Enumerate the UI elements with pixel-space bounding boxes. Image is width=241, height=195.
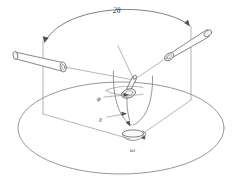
two-theta-arrow-right bbox=[184, 20, 190, 27]
two-theta-label: 2θ bbox=[113, 6, 121, 15]
omega-base bbox=[123, 130, 146, 141]
detector-tube bbox=[163, 29, 213, 63]
base-radial-arms bbox=[43, 100, 191, 139]
omega-label: ω bbox=[130, 146, 135, 154]
beam-paths bbox=[64, 46, 168, 80]
chi-arrow bbox=[121, 112, 127, 116]
collimator-tube bbox=[12, 51, 66, 72]
chi-label: χ bbox=[98, 115, 103, 123]
chi-leader bbox=[107, 112, 127, 117]
goniometer-diagram-canvas: 2θ ϕ χ ω bbox=[0, 0, 241, 195]
phi-label: ϕ bbox=[97, 95, 101, 103]
goniometer-figure: 2θ ϕ χ ω bbox=[0, 0, 241, 195]
